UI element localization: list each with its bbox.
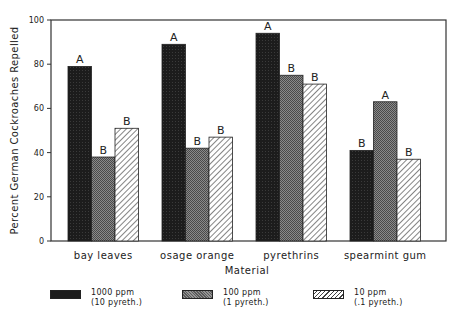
bar-spearmint-gum-2 xyxy=(397,159,421,241)
significance-letter: B xyxy=(358,137,366,150)
significance-letter: A xyxy=(170,31,178,44)
legend-item-10ppm: 10 ppm (.1 pyreth.) xyxy=(313,288,433,318)
significance-letter: B xyxy=(287,62,295,75)
y-axis-label: Percent German Cockroaches Repelled xyxy=(9,26,20,234)
legend-item-1000ppm: 1000 ppm (10 pyreth.) xyxy=(50,288,170,318)
legend-item-100ppm: 100 ppm (1 pyreth.) xyxy=(182,288,302,318)
bar-spearmint-gum-1 xyxy=(374,102,398,241)
legend-swatch-10ppm xyxy=(313,290,344,299)
significance-letter: B xyxy=(217,124,225,137)
y-tick-label: 40 xyxy=(34,149,44,158)
y-tick-label: 80 xyxy=(34,60,44,69)
legend-swatch-1000ppm xyxy=(50,290,81,299)
bar-spearmint-gum-0 xyxy=(350,150,374,241)
bar-bay-leaves-0 xyxy=(68,66,92,241)
significance-letter: B xyxy=(311,71,319,84)
x-category-label: osage orange xyxy=(160,250,234,261)
bars-group: ABBABBABBBAB xyxy=(68,20,421,241)
bar-bay-leaves-1 xyxy=(92,157,116,241)
significance-letter: A xyxy=(76,53,84,66)
significance-letter: B xyxy=(99,144,107,157)
legend-label-line1: 1000 ppm xyxy=(91,288,134,298)
bar-pyrethrins-0 xyxy=(256,33,280,241)
legend-label-line1: 10 ppm xyxy=(354,288,386,298)
bar-osage-orange-2 xyxy=(209,137,233,241)
bar-osage-orange-1 xyxy=(186,148,210,241)
legend-swatch-100ppm xyxy=(182,290,213,299)
x-category-label: spearmint gum xyxy=(344,250,427,261)
bar-chart: 020406080100 ABBABBABBBAB Percent German… xyxy=(0,0,453,285)
significance-letter: A xyxy=(264,20,272,33)
significance-letter: A xyxy=(381,89,389,102)
legend-label-line2: (10 pyreth.) xyxy=(91,298,142,308)
bar-pyrethrins-1 xyxy=(280,75,304,241)
x-category-label: pyrethrins xyxy=(263,250,319,261)
y-tick-label: 60 xyxy=(34,104,44,113)
bar-bay-leaves-2 xyxy=(115,128,139,241)
legend-label-line2: (1 pyreth.) xyxy=(223,298,269,308)
bar-osage-orange-0 xyxy=(162,44,186,241)
y-tick-label: 20 xyxy=(34,193,44,202)
legend-label-line1: 100 ppm xyxy=(223,288,261,298)
significance-letter: B xyxy=(193,135,201,148)
significance-letter: B xyxy=(123,115,131,128)
significance-letter: B xyxy=(405,146,413,159)
x-category-label: bay leaves xyxy=(74,250,133,261)
bar-pyrethrins-2 xyxy=(303,84,327,241)
y-tick-label: 0 xyxy=(39,237,44,246)
y-tick-label: 100 xyxy=(29,16,44,25)
legend-label-line2: (.1 pyreth.) xyxy=(354,298,403,308)
x-axis-label: Material xyxy=(225,265,270,276)
